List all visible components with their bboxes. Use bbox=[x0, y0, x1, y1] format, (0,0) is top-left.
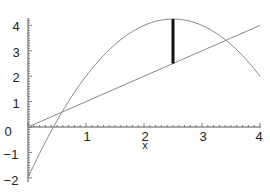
ytick-label: 1 bbox=[12, 96, 19, 111]
axis-ticks bbox=[28, 20, 260, 177]
xtick-label: 4 bbox=[255, 129, 262, 144]
ytick-label: 4 bbox=[12, 19, 19, 34]
ytick-label: −2 bbox=[4, 173, 19, 188]
plot-series bbox=[28, 19, 260, 178]
curve-series bbox=[28, 19, 260, 178]
xtick-label: 3 bbox=[199, 129, 206, 144]
chart: 4 3 2 1 0 −1 −2 1 2 3 4 x bbox=[0, 0, 270, 194]
ytick-label: 3 bbox=[12, 45, 19, 60]
x-axis-label: x bbox=[142, 139, 148, 151]
ytick-label: 2 bbox=[12, 70, 19, 85]
ytick-label: −1 bbox=[4, 147, 19, 162]
ytick-label: 0 bbox=[4, 124, 11, 139]
line-series bbox=[28, 25, 260, 127]
xtick-label: 1 bbox=[83, 129, 90, 144]
